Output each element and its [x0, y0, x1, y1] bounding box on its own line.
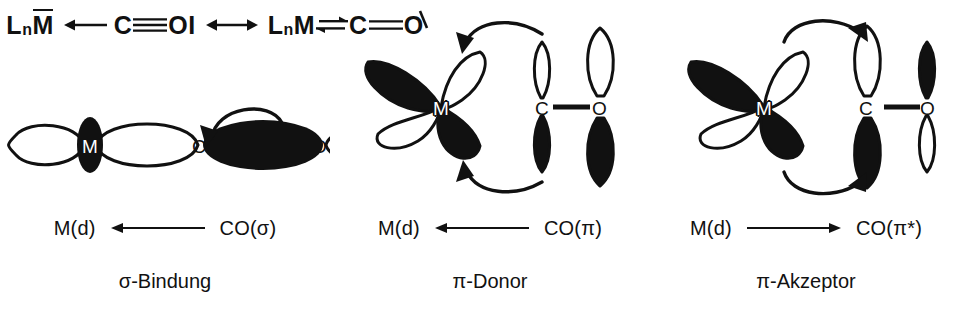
pi-acceptor-donation-caption: M(d) CO(π*) [648, 215, 964, 241]
metal-lobe-lower-left [377, 107, 441, 148]
panel-sigma-orbital-diagram: M C O [0, 95, 330, 195]
metal-atom-label: M [756, 99, 772, 118]
panel-pi-acceptor-orbital-diagram: M C O [672, 14, 964, 200]
pi-acceptor-lower-curved-arrow [784, 172, 858, 194]
figure-canvas: LnM C OI [0, 0, 964, 312]
carbon-sigma-lobe [203, 120, 323, 170]
resonance-arrow-icon [205, 15, 259, 35]
carbon-p-lobe-bottom [534, 116, 549, 172]
oxygen-p-lobe-bottom [919, 116, 934, 172]
carbon-atom-label: C [859, 99, 873, 118]
pi-donor-orbital-svg [336, 14, 636, 200]
carbon-symbol: C [114, 11, 133, 40]
oxygen-p-lobe-top [919, 42, 934, 98]
pi-donor-lower-curved-arrow [467, 172, 542, 192]
donation-arrow-left-icon [63, 16, 109, 34]
sigma-panel-title: σ-Bindung [0, 268, 330, 294]
pi-donor-panel-title: π-Donor [330, 268, 650, 294]
metal-ligand-count: n [284, 21, 294, 39]
pi-acceptor-panel-title: π-Akzeptor [648, 268, 964, 294]
panel-pi-donor-orbital-diagram: M C O [336, 14, 636, 200]
metal-lobe-lower-left [700, 107, 764, 148]
pi-acceptor-metal-label: M(d) [690, 217, 732, 240]
pi-donor-caption-arrow-left-icon [434, 220, 530, 236]
oxygen-symbol: O [168, 11, 188, 40]
carbon-p-lobe-top [534, 42, 549, 98]
metal-symbol-with-overbar: M [32, 11, 53, 40]
metal-ligand-L: L [268, 11, 284, 40]
pi-acceptor-co-label: CO(π*) [856, 217, 922, 240]
sigma-orbital-svg [0, 95, 330, 195]
resonance-left-structure: LnM C OI [6, 11, 195, 40]
pi-donor-co-label: CO(π) [544, 217, 602, 240]
pi-acceptor-caption-arrow-right-icon [746, 220, 842, 236]
pi-acceptor-upper-curved-arrow [784, 21, 860, 42]
metal-symbol: M [294, 11, 315, 40]
oxygen-atom-label: O [592, 99, 607, 118]
carbon-p-lobe-bottom [855, 118, 881, 188]
metal-symbol: M [32, 11, 53, 39]
sigma-caption-arrow-left-icon [110, 220, 206, 236]
metal-dz2-right-lobe [96, 124, 198, 166]
metal-ligand-count: n [22, 21, 32, 39]
metal-ligand-L: L [6, 11, 22, 40]
metal-lobe-upper-left [689, 62, 764, 112]
sigma-metal-label: M(d) [54, 217, 96, 240]
metal-atom-label: M [82, 137, 98, 156]
pi-donor-donation-caption: M(d) CO(π) [330, 215, 650, 241]
oxygen-lone-pair: I [188, 11, 195, 40]
pi-donor-upper-curved-arrow [466, 23, 542, 42]
pi-donor-metal-label: M(d) [378, 217, 420, 240]
metal-dz2-left-lobe [9, 125, 85, 164]
oxygen-p-lobe-bottom [588, 118, 614, 186]
sigma-donation-caption: M(d) CO(σ) [0, 215, 330, 241]
oxygen-atom-label: O [920, 99, 935, 118]
carbon-atom-label: C [535, 99, 549, 118]
triple-bond-icon [132, 16, 168, 34]
oxygen-p-lobe-top [588, 28, 614, 96]
sigma-co-label: CO(σ) [220, 217, 277, 240]
metal-lobe-upper-left [366, 62, 441, 112]
carbon-atom-label: C [192, 137, 206, 156]
oxygen-atom-label: O [312, 137, 327, 156]
metal-atom-label: M [433, 99, 449, 118]
